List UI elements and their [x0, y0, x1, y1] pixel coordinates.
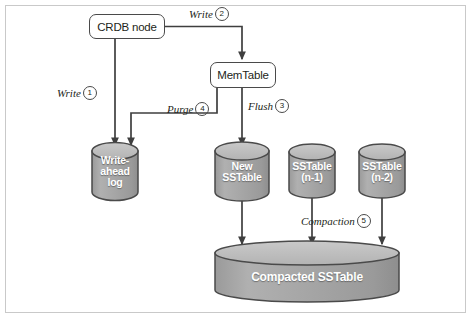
edge-purge-4-line [131, 88, 217, 145]
edge-label-compaction-5-text: Compaction [301, 215, 355, 227]
step-number-5: 5 [357, 214, 371, 228]
edge-label-purge-4: Purge 4 [167, 102, 209, 116]
edge-label-flush-3: Flush 3 [248, 99, 289, 113]
diagram-canvas [0, 0, 472, 319]
edge-write-2-line [165, 27, 242, 60]
edge-label-purge-4-text: Purge [167, 103, 193, 115]
store-wal-shape [92, 143, 138, 201]
edge-label-write-2: Write 2 [189, 7, 229, 21]
node-crdb-node[interactable]: CRDB node [89, 14, 165, 39]
store-compacted-sstable-shape [215, 241, 399, 302]
edge-label-write-1: Write 1 [57, 86, 97, 100]
step-number-1: 1 [83, 86, 97, 100]
edge-label-compaction-5: Compaction 5 [301, 214, 371, 228]
node-memtable[interactable]: MemTable [210, 62, 276, 88]
step-number-2: 2 [215, 7, 229, 21]
edge-label-write-2-text: Write [189, 8, 213, 20]
edge-label-write-1-text: Write [57, 87, 81, 99]
store-sstable-n2-shape [359, 144, 405, 198]
store-new-sstable-shape [215, 142, 269, 201]
step-number-3: 3 [275, 99, 289, 113]
edge-label-flush-3-text: Flush [248, 100, 273, 112]
node-crdb-node-label: CRDB node [97, 21, 157, 33]
node-memtable-label: MemTable [217, 69, 268, 81]
store-sstable-n1-shape [289, 144, 335, 198]
step-number-4: 4 [195, 102, 209, 116]
diagram-figure: CRDB node MemTable Write 1 Write 2 Flush… [0, 0, 472, 319]
